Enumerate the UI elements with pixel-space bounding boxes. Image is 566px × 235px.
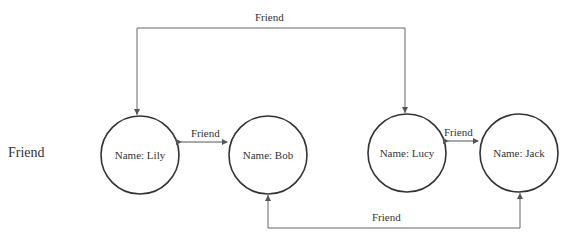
edge-top-route [137, 28, 405, 115]
node-label-jack: Name: Jack [493, 147, 545, 159]
node-label-lily: Name: Lily [115, 149, 165, 161]
edge-label-lily-bob: Friend [191, 127, 220, 139]
side-label: Friend [8, 145, 45, 161]
node-label-lucy: Name: Lucy [380, 147, 435, 159]
node-label-bob: Name: Bob [243, 149, 293, 161]
graph-diagram [0, 0, 566, 235]
edge-label-lucy-jack: Friend [444, 126, 473, 138]
edge-label-bottom: Friend [372, 211, 401, 223]
edge-label-top: Friend [255, 11, 284, 23]
